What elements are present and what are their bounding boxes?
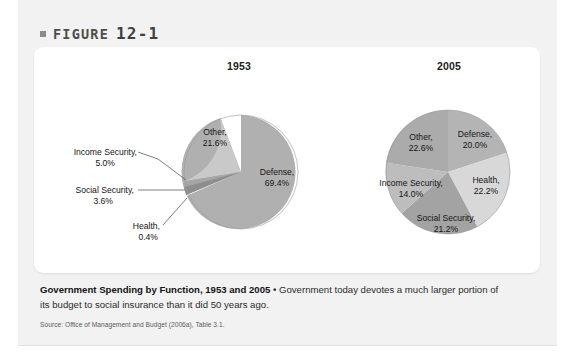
pie-1953-label-social-security-line2: 3.6% (93, 196, 113, 206)
figure-label-number: 12-1 (116, 24, 159, 43)
pie-1953-label-health-line2: 0.4% (138, 232, 158, 242)
figure-label-word: FIGURE (53, 26, 109, 42)
figure-page: FIGURE 12-1 1953 2005 Other, 21.6 (18, 0, 557, 346)
caption-text: Government Spending by Function, 1953 an… (40, 283, 510, 312)
chart-panel: 1953 2005 Other, 21.6% Defense, (34, 47, 540, 273)
pie-2005-label-income-security-line1: Income Security, (379, 178, 442, 188)
pie-1953-label-health-line1: Health, (133, 221, 160, 231)
pie-1953: Other, 21.6% Defense, 69.4% Income Secur… (74, 115, 298, 242)
pie-2005-label-health-line1: Health, (472, 175, 499, 185)
caption-title: Government Spending by Function, 1953 an… (40, 284, 270, 295)
caption-block: Government Spending by Function, 1953 an… (40, 283, 510, 328)
pie-1953-label-social-security-line1: Social Security, (75, 185, 134, 195)
pie-2005-label-income-security-line2: 14.0% (399, 189, 424, 199)
pie-1953-label-income-security-line2: 5.0% (95, 158, 115, 168)
pie-1953-label-other-line1: Other, (203, 127, 226, 137)
pie-2005-label-social-security-line2: 21.2% (434, 224, 459, 234)
pie-2005-label-other-line2: 22.6% (409, 143, 434, 153)
pie-2005-label-defense-line2: 20.0% (463, 140, 488, 150)
pie-charts-svg: Other, 21.6% Defense, 69.4% Income Secur… (34, 47, 540, 273)
pie-2005-label-health-line2: 22.2% (474, 186, 499, 196)
pie-1953-label-defense-line2: 69.4% (265, 178, 290, 188)
pie-1953-label-defense-line1: Defense, (260, 167, 294, 177)
pie-2005-label-defense-line1: Defense, (458, 129, 492, 139)
pie-1953-label-other-line2: 21.6% (203, 138, 228, 148)
pie-2005-label-social-security-line1: Social Security, (417, 213, 476, 223)
figure-heading: FIGURE 12-1 (40, 24, 159, 43)
square-bullet-icon (40, 31, 46, 37)
caption-separator: • (273, 284, 276, 295)
pie-1953-leader-health (163, 198, 187, 225)
pie-1953-label-income-security-line1: Income Security, (74, 147, 137, 157)
pie-2005-label-other-line1: Other, (409, 132, 432, 142)
source-line: Source: Office of Management and Budget … (40, 321, 510, 328)
pie-1953-leader-income-security (138, 152, 186, 180)
pie-2005: Defense, 20.0% Health, 22.2% Social Secu… (379, 110, 510, 234)
